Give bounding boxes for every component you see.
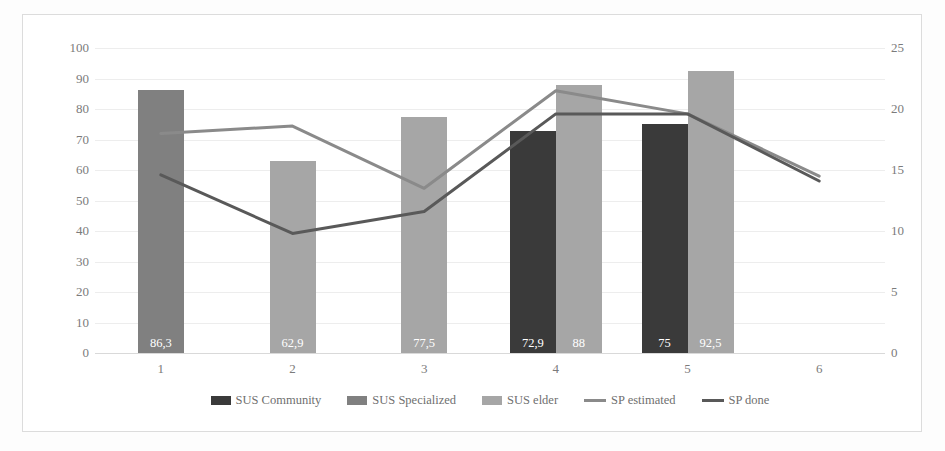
legend-label: SUS elder [507, 393, 558, 408]
category-tick-label: 2 [273, 362, 313, 375]
legend-label: SUS Community [236, 393, 322, 408]
legend-line-icon [702, 399, 724, 402]
legend-swatch-icon [211, 396, 231, 405]
legend-item[interactable]: SUS Specialized [347, 393, 456, 408]
left-axis-tick-label: 0 [43, 346, 89, 359]
line-series [161, 114, 819, 234]
left-axis-tick-label: 40 [43, 224, 89, 237]
chart-frame: 0102030405060708090100 0510152025 86,362… [22, 14, 922, 432]
category-tick-label: 4 [536, 362, 576, 375]
category-tick-label: 5 [668, 362, 708, 375]
legend-label: SP done [729, 393, 770, 408]
left-axis-tick-label: 90 [43, 72, 89, 85]
right-axis-tick-label: 20 [891, 102, 931, 115]
chart-legend: SUS CommunitySUS SpecializedSUS elderSP … [95, 393, 885, 408]
right-axis-tick-label: 25 [891, 41, 931, 54]
legend-line-icon [584, 399, 606, 402]
legend-label: SUS Specialized [372, 393, 456, 408]
legend-swatch-icon [347, 396, 367, 405]
plot-area: 0102030405060708090100 0510152025 86,362… [95, 48, 885, 353]
left-axis-tick-label: 10 [43, 316, 89, 329]
legend-item[interactable]: SP done [702, 393, 770, 408]
legend-item[interactable]: SUS Community [211, 393, 322, 408]
category-axis-line [95, 353, 885, 354]
line-series [161, 91, 819, 189]
legend-item[interactable]: SP estimated [584, 393, 675, 408]
left-axis-tick-label: 60 [43, 163, 89, 176]
right-axis-tick-label: 15 [891, 163, 931, 176]
legend-item[interactable]: SUS elder [482, 393, 558, 408]
left-axis-tick-label: 100 [43, 41, 89, 54]
left-axis-tick-label: 30 [43, 255, 89, 268]
legend-label: SP estimated [611, 393, 675, 408]
category-tick-label: 6 [799, 362, 839, 375]
left-axis-tick-label: 70 [43, 133, 89, 146]
legend-swatch-icon [482, 396, 502, 405]
line-series-group [95, 48, 885, 353]
right-axis-tick-label: 10 [891, 224, 931, 237]
left-axis-tick-label: 20 [43, 285, 89, 298]
right-axis-tick-label: 0 [891, 346, 931, 359]
category-tick-label: 3 [404, 362, 444, 375]
left-axis-tick-label: 50 [43, 194, 89, 207]
right-axis-tick-label: 5 [891, 285, 931, 298]
left-axis-tick-label: 80 [43, 102, 89, 115]
category-tick-label: 1 [141, 362, 181, 375]
chart-page: 0102030405060708090100 0510152025 86,362… [0, 0, 945, 451]
